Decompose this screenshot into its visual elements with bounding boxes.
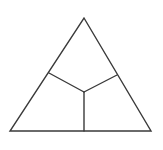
outer-triangle xyxy=(10,18,151,131)
divider-left xyxy=(49,73,84,92)
triangle-diagram xyxy=(0,0,163,150)
divider-right xyxy=(84,75,117,92)
